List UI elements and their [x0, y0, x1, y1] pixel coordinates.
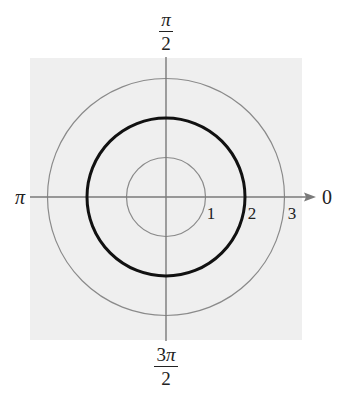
angle-label-three-half-pi: 3π 2 [150, 345, 182, 388]
angle-label-half-pi-numerator: π [159, 10, 173, 32]
polar-plot [0, 0, 338, 398]
radial-tick-1: 1 [205, 205, 217, 222]
angle-label-pi: π [12, 187, 28, 207]
angle-label-half-pi: π 2 [154, 10, 178, 53]
angle-label-three-half-pi-numerator: 3π [154, 345, 177, 367]
angle-label-zero: 0 [320, 187, 334, 207]
radial-tick-2: 2 [246, 205, 258, 222]
angle-label-three-half-pi-pi: π [166, 344, 176, 365]
angle-label-three-half-pi-coef: 3 [156, 344, 166, 365]
angle-label-half-pi-denominator: 2 [161, 32, 171, 53]
angle-label-three-half-pi-denominator: 2 [161, 367, 171, 388]
radial-tick-3: 3 [286, 205, 298, 222]
